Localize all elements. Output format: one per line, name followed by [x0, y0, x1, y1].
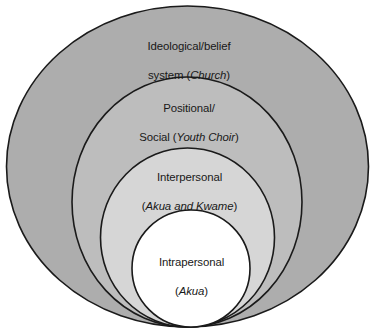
nested-circles-diagram: Ideological/belief system (Church) Posit… [0, 0, 377, 333]
ring-ellipse-intrapersonal [132, 210, 250, 327]
nested-ellipses-graphic [0, 0, 377, 333]
